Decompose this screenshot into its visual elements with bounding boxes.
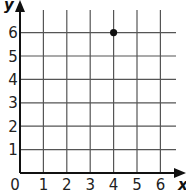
x-tick-labels: 0123456 (10, 176, 165, 192)
y-tick-label: 2 (8, 118, 18, 136)
data-point (110, 29, 117, 36)
y-tick-label: 3 (8, 94, 18, 112)
x-tick-label: 5 (132, 176, 142, 192)
y-tick-labels: 123456 (8, 24, 18, 159)
y-axis-label: y (4, 0, 15, 14)
x-tick-label: 6 (156, 176, 166, 192)
data-points (110, 29, 117, 36)
x-tick-label: 2 (62, 176, 72, 192)
x-tick-label: 0 (10, 176, 20, 192)
y-axis-arrow-icon (15, 0, 25, 12)
coordinate-plane-chart: 0123456 123456 x y (0, 0, 186, 192)
x-axis-label: x (177, 176, 186, 192)
y-tick-label: 5 (8, 48, 18, 66)
x-tick-label: 4 (109, 176, 119, 192)
x-tick-label: 3 (85, 176, 95, 192)
y-tick-label: 4 (8, 71, 18, 89)
y-tick-label: 6 (8, 24, 18, 42)
grid-lines (20, 10, 176, 173)
x-tick-label: 1 (39, 176, 49, 192)
y-tick-label: 1 (8, 141, 18, 159)
